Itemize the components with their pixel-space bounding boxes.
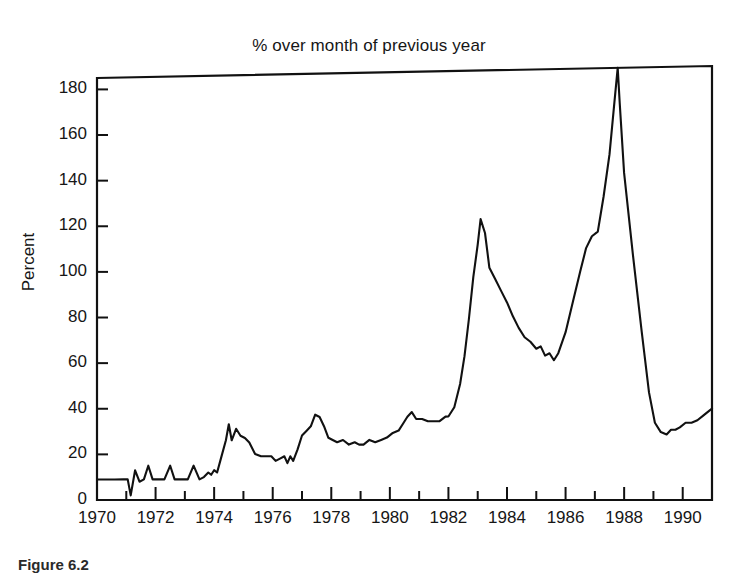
x-tick-label: 1972 bbox=[126, 508, 186, 528]
x-tick-label: 1970 bbox=[67, 508, 127, 528]
y-tick-label: 140 bbox=[31, 170, 87, 190]
y-tick-label: 160 bbox=[31, 124, 87, 144]
y-tick-label: 80 bbox=[31, 307, 87, 327]
x-tick-label: 1990 bbox=[653, 508, 713, 528]
x-tick-label: 1988 bbox=[594, 508, 654, 528]
axis-ticks bbox=[97, 67, 712, 500]
y-tick-label: 60 bbox=[31, 352, 87, 372]
plot-frame bbox=[97, 66, 712, 500]
y-tick-label: 0 bbox=[31, 489, 87, 509]
figure-container: % over month of previous year Percent 02… bbox=[0, 0, 738, 575]
y-tick-label: 180 bbox=[31, 78, 87, 98]
line-chart-plot bbox=[0, 0, 738, 575]
x-tick-label: 1982 bbox=[418, 508, 478, 528]
y-tick-label: 40 bbox=[31, 398, 87, 418]
x-tick-label: 1974 bbox=[184, 508, 244, 528]
x-tick-label: 1986 bbox=[536, 508, 596, 528]
y-tick-label: 20 bbox=[31, 443, 87, 463]
figure-caption: Figure 6.2 bbox=[18, 556, 89, 573]
x-tick-label: 1984 bbox=[477, 508, 537, 528]
y-tick-label: 120 bbox=[31, 215, 87, 235]
y-tick-label: 100 bbox=[31, 261, 87, 281]
x-tick-label: 1980 bbox=[360, 508, 420, 528]
data-line-group bbox=[97, 68, 712, 496]
x-tick-label: 1978 bbox=[301, 508, 361, 528]
x-tick-label: 1976 bbox=[243, 508, 303, 528]
